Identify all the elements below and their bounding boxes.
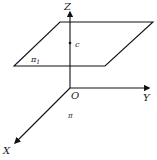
coordinate-diagram: Z Y X O c π1 π bbox=[0, 0, 157, 160]
x-axis-label: X bbox=[2, 145, 11, 156]
z-axis-label: Z bbox=[63, 1, 72, 12]
origin-label: O bbox=[71, 90, 79, 101]
x-axis bbox=[15, 88, 70, 143]
diagram-canvas: Z Y X O c π1 π bbox=[0, 0, 157, 160]
plane-pi1-subscript: 1 bbox=[36, 58, 40, 65]
plane-pi1-label: π1 bbox=[30, 55, 40, 65]
point-c-label: c bbox=[75, 40, 80, 49]
y-axis-label: Y bbox=[143, 92, 151, 103]
plane-pi-label: π bbox=[67, 112, 73, 120]
point-c bbox=[69, 42, 72, 45]
